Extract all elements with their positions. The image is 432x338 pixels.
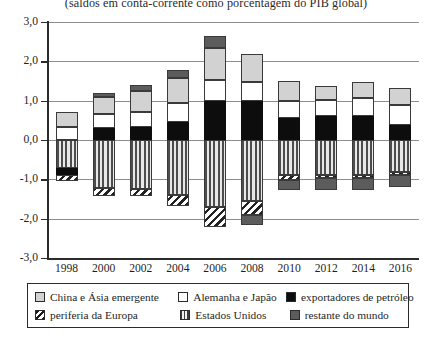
bar-segment-row	[389, 175, 411, 188]
bar-segment-periphery	[167, 195, 189, 206]
bar-segment-germany	[167, 103, 189, 123]
legend-item-row: restante do mundo	[290, 306, 402, 324]
legend-label-row: restante do mundo	[305, 309, 389, 321]
bar-segment-periphery	[204, 207, 226, 227]
bar-column	[93, 22, 115, 258]
bar-column	[167, 22, 189, 258]
bar-segment-oil	[278, 118, 300, 140]
bar-segment-periphery	[93, 188, 115, 196]
bar-segment-china	[93, 97, 115, 115]
bar-segment-periphery	[56, 175, 78, 180]
legend-label-usa: Estados Unidos	[195, 309, 266, 321]
bar-segment-china	[278, 81, 300, 101]
y-axis-tick-label: 0,0	[0, 134, 38, 146]
legend-item-usa: Estados Unidos	[180, 306, 289, 324]
bar-column	[130, 22, 152, 258]
bar-segment-china	[130, 91, 152, 111]
y-axis-tick-label: 3,0	[0, 16, 38, 28]
y-axis-tick	[41, 61, 48, 62]
bar-segment-oil	[130, 127, 152, 140]
bar-segment-row	[315, 178, 337, 190]
bar-segment-germany	[93, 114, 115, 128]
bar-column	[389, 22, 411, 258]
bar-column	[204, 22, 226, 258]
bar-segment-china	[167, 78, 189, 102]
bar-segment-china	[204, 48, 226, 80]
y-axis-tick-label: -1,0	[0, 173, 38, 185]
legend-label-periphery: periferia da Europa	[50, 309, 138, 321]
plot-area: 1998200020022004200620082010201220142016…	[0, 0, 432, 272]
bar-segment-usa	[93, 140, 115, 188]
y-axis-tick	[41, 101, 48, 102]
bar-column	[241, 22, 263, 258]
y-axis-tick	[41, 179, 48, 180]
y-axis-tick	[41, 140, 48, 141]
legend-swatch-oil-icon	[286, 292, 296, 302]
bar-segment-row	[352, 178, 374, 190]
y-axis-tick	[41, 258, 48, 259]
bar-segment-usa	[130, 140, 152, 189]
plot-canvas	[48, 22, 419, 258]
bar-segment-oil	[389, 125, 411, 140]
legend-item-germany: Alemanha e Japão	[178, 288, 286, 306]
legend-item-china: China e Ásia emergente	[35, 288, 178, 306]
y-axis-tick-label: -3,0	[0, 252, 38, 264]
bar-segment-oil	[241, 101, 263, 140]
legend-label-germany: Alemanha e Japão	[193, 291, 277, 303]
legend-row: periferia da Europa Estados Unidos resta…	[35, 306, 402, 324]
legend-row: China e Ásia emergente Alemanha e Japão …	[35, 288, 402, 306]
bar-column	[352, 22, 374, 258]
bar-segment-china	[315, 86, 337, 100]
bar-segment-germany	[130, 112, 152, 128]
legend-item-oil: exportadores de petróleo	[286, 288, 402, 306]
bar-segment-germany	[278, 101, 300, 119]
legend-label-oil: exportadores de petróleo	[301, 291, 414, 303]
legend-swatch-germany-icon	[178, 292, 188, 302]
bar-segment-germany	[352, 98, 374, 117]
chart-legend: China e Ásia emergente Alemanha e Japão …	[27, 283, 409, 328]
bar-segment-usa	[204, 140, 226, 207]
bar-segment-germany	[315, 100, 337, 117]
legend-swatch-usa-icon	[180, 310, 190, 320]
y-axis-tick-label: 1,0	[0, 95, 38, 107]
bar-segment-usa	[352, 140, 374, 175]
bar-segment-usa	[167, 140, 189, 195]
bar-segment-row	[204, 36, 226, 48]
bar-column	[56, 22, 78, 258]
bar-segment-oil	[56, 168, 78, 175]
bar-segment-row	[241, 215, 263, 225]
bar-segment-china	[241, 54, 263, 82]
x-axis-tick-label: 2016	[376, 262, 424, 275]
bar-segment-row	[167, 70, 189, 78]
bar-segment-usa	[241, 140, 263, 201]
y-axis-tick-label: 2,0	[0, 55, 38, 67]
bar-segment-germany	[389, 105, 411, 125]
legend-label-china: China e Ásia emergente	[50, 291, 159, 303]
bar-segment-china	[352, 82, 374, 98]
bar-segment-china	[56, 112, 78, 127]
bar-column	[278, 22, 300, 258]
bar-segment-germany	[241, 82, 263, 102]
legend-item-periphery: periferia da Europa	[35, 306, 180, 324]
bar-segment-germany	[204, 80, 226, 100]
bar-segment-usa	[315, 140, 337, 175]
chart-page: (saldos em conta-corrente como porcentag…	[0, 0, 432, 338]
legend-swatch-periphery-icon	[35, 310, 45, 320]
x-axis-line	[47, 258, 419, 260]
bar-segment-china	[389, 88, 411, 106]
legend-swatch-restofworld-icon	[290, 310, 300, 320]
bar-column	[315, 22, 337, 258]
bar-segment-usa	[389, 140, 411, 172]
bar-segment-usa	[278, 140, 300, 175]
bar-segment-germany	[56, 127, 78, 140]
bar-segment-oil	[93, 128, 115, 140]
bar-segment-row	[278, 180, 300, 190]
y-axis-tick-label: -2,0	[0, 213, 38, 225]
y-axis-tick	[41, 219, 48, 220]
legend-swatch-china-icon	[35, 292, 45, 302]
bar-segment-oil	[315, 116, 337, 140]
y-axis-tick	[41, 22, 48, 23]
bar-segment-usa	[56, 140, 78, 168]
bar-segment-oil	[167, 122, 189, 140]
bar-segment-oil	[352, 116, 374, 140]
